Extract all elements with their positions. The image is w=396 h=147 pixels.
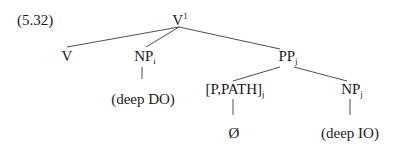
node-v-bar: V1 [172,12,187,28]
node-deep-io: (deep IO) [321,125,379,141]
node-pp-j: PPj [278,48,297,69]
edge-root-pp-j [179,27,280,49]
node-p-path: [P,PATH]j [205,81,264,102]
edge-pp-j-p-path [233,67,280,81]
node-v: V [62,48,73,64]
edge-pp-j-np-j [294,67,347,81]
node-np-i: NPi [134,48,156,69]
node-np-j: NPj [341,81,363,102]
node-null: Ø [229,125,240,141]
node-deep-do: (deep DO) [111,91,175,107]
